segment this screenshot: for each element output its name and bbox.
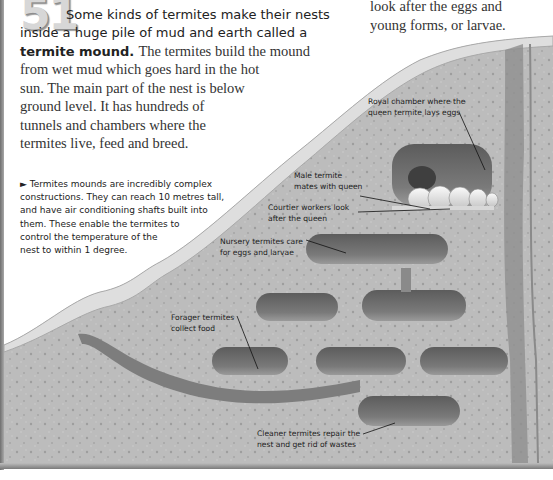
body-line: sun. The main part of the nest is below [20, 79, 310, 98]
caption-line: constructions. They can reach 10 metres … [20, 191, 260, 204]
chamber [256, 293, 338, 321]
body-line: tunnels and chambers where the [20, 116, 310, 135]
label-nursery: Nursery termites care for eggs and larva… [220, 236, 303, 258]
label-cleaner: Cleaner termites repair the nest and get… [257, 428, 360, 450]
intro-lead: Some kinds of termites make their nests … [20, 7, 330, 40]
label-courtier: Courtier workers look after the queen [268, 202, 349, 224]
cleaner-chamber [358, 396, 460, 426]
fact-body: from wet mud which goes hard in the hot … [20, 60, 310, 153]
caption-line: Termites mounds are incredibly complex [30, 179, 212, 189]
page-bottom-edge [0, 463, 553, 469]
continued-text: look after the eggs and young forms, or … [370, 0, 553, 35]
caption-arrow-icon: ► [20, 179, 27, 189]
body-line: ground level. It has hundreds of [20, 97, 310, 116]
caption-line: and have air conditioning shafts built i… [20, 204, 260, 217]
caption-line: them. These enable the termites to [20, 218, 260, 231]
page-left-edge [0, 0, 4, 470]
intro-bold-term: termite mound. [20, 44, 134, 59]
forager-chamber [212, 347, 288, 375]
intro-body-line-0: The termites build the mound [138, 43, 310, 59]
body-line: from wet mud which goes hard in the hot [20, 60, 310, 79]
label-male-termite: Male termite mates with queen [294, 170, 362, 192]
chamber [316, 347, 406, 375]
label-forager: Forager termites collect food [171, 312, 234, 334]
fact-intro: Some kinds of termites make their nests … [20, 6, 340, 61]
continued-line: look after the eggs and [370, 0, 553, 16]
chamber [420, 347, 508, 375]
chamber [362, 290, 466, 321]
label-royal-chamber: Royal chamber where the queen termite la… [368, 96, 466, 118]
book-page: 51 Some kinds of termites make their nes… [0, 0, 553, 480]
nursery-chamber [306, 234, 448, 264]
continued-line: young forms, or larvae. [370, 16, 553, 35]
male-termite [408, 166, 436, 190]
body-line: termites live, feed and breed. [20, 134, 310, 153]
